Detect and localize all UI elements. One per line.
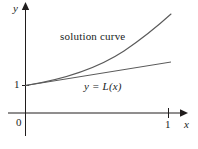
y-axis-arrowhead	[22, 2, 29, 10]
solution-curve	[26, 14, 172, 86]
x-axis-label: x	[184, 119, 189, 130]
x-axis-arrowhead	[180, 109, 188, 117]
solution-curve-label: solution curve	[60, 31, 125, 42]
y-axis-label: y	[13, 3, 18, 14]
linearization-label: y = L(x)	[84, 81, 122, 92]
linearization-figure: y x 0 1 1 solution curve y = L(x)	[0, 0, 198, 149]
origin-label: 0	[16, 117, 22, 128]
y-tick-label-1: 1	[14, 79, 20, 90]
x-tick-label-1: 1	[165, 119, 171, 130]
